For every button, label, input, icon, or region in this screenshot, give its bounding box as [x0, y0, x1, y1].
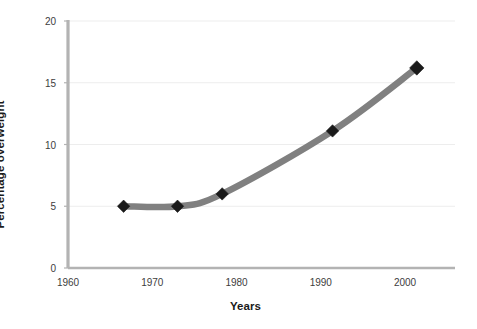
data-point-marker: [171, 200, 183, 212]
data-point-marker: [216, 188, 228, 200]
y-axis-tick-label: 15: [30, 77, 62, 88]
x-axis-tick-label: 2000: [375, 277, 435, 288]
x-axis-tick-label: 1970: [122, 277, 182, 288]
data-point-marker: [117, 200, 129, 212]
x-axis-tick-label: 1960: [38, 277, 98, 288]
data-point-marker: [326, 125, 338, 137]
series-line: [124, 68, 417, 207]
y-axis-tick-label: 0: [30, 263, 62, 274]
data-point-marker: [410, 61, 424, 75]
y-axis-tick-label: 10: [30, 139, 62, 150]
y-axis-title: Percentage overweight: [0, 0, 36, 329]
x-axis-tick-label: 1990: [291, 277, 351, 288]
x-axis-tick-label: 1980: [207, 277, 267, 288]
chart-container: Percentage overweight 05101520 196019701…: [0, 0, 477, 329]
x-axis-title: Years: [68, 300, 423, 312]
y-axis-tick-label: 20: [30, 16, 62, 27]
y-axis-tick-label: 5: [30, 201, 62, 212]
